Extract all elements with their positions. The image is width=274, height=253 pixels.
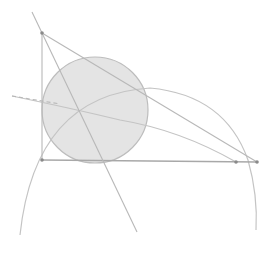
extension-above-a [32,12,42,33]
vertex-d [234,160,238,164]
side-bc [42,160,257,162]
vertex-c [255,160,259,164]
vertex-b [40,158,44,162]
incircle [42,57,148,163]
vertex-a [40,31,44,35]
geometry-diagram [0,0,274,253]
